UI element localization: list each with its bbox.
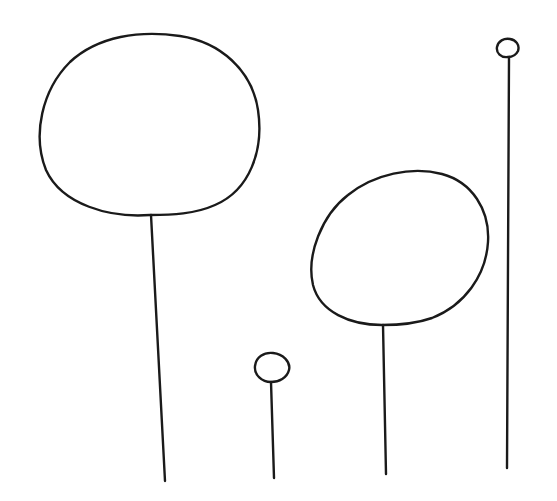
small-stem [271,382,274,478]
tiny-circle-head [497,39,519,57]
medium-circle-head [311,171,488,325]
lollipop-tiny-far-right [497,39,519,468]
small-circle-head [255,353,289,382]
lollipop-medium-right [311,171,488,474]
large-stem [151,215,165,481]
lollipop-large-left [40,34,260,481]
line-drawing [0,0,557,501]
large-circle-head [40,34,260,216]
tiny-stem [507,57,509,468]
medium-stem [383,325,386,474]
lollipop-small-center [255,353,289,478]
